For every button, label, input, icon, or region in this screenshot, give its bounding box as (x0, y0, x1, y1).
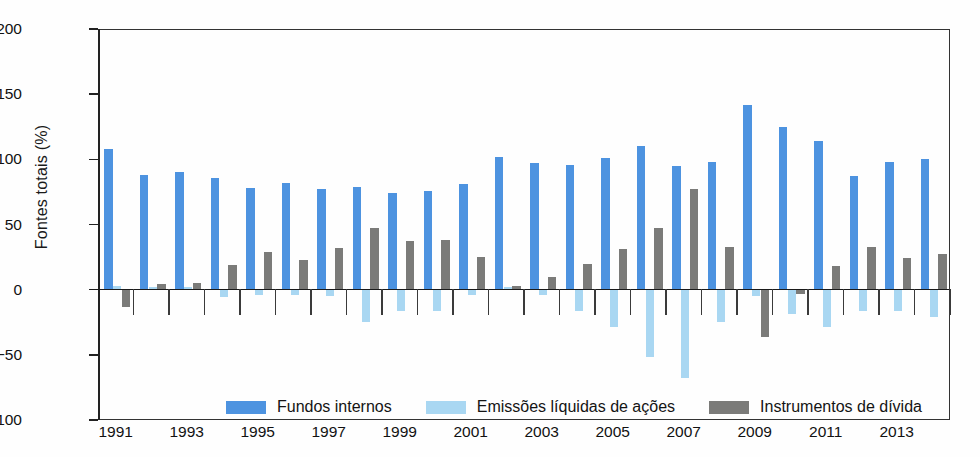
x-tick-8 (381, 289, 382, 315)
bar-2008-series-2 (725, 247, 733, 290)
bar-2006-series-1 (646, 290, 654, 358)
bar-1998-series-0 (353, 187, 361, 290)
bar-1996-series-2 (299, 260, 307, 290)
bar-2000-series-1 (433, 290, 441, 311)
bar-2000-series-2 (441, 240, 449, 290)
x-tick-24 (949, 289, 950, 315)
y-tick-label--100: −100 (0, 411, 22, 429)
x-tick-23 (914, 289, 915, 315)
y-tick-100 (89, 159, 98, 161)
x-tick-15 (630, 289, 631, 315)
x-tick-label-1995: 1995 (226, 423, 290, 441)
y-tick--50 (89, 354, 98, 356)
bar-2002-series-0 (495, 157, 503, 290)
y-tick-label-200: 200 (0, 20, 22, 38)
bar-1994-series-1 (220, 290, 228, 298)
bar-2007-series-2 (690, 189, 698, 289)
bar-2004-series-2 (583, 264, 591, 290)
bar-2000-series-0 (424, 191, 432, 290)
bar-2011-series-1 (823, 290, 831, 328)
legend-item-instrumentos-de-divida: Instrumentos de dívida (709, 398, 922, 416)
y-tick-label--50: −50 (0, 346, 22, 364)
bar-2010-series-1 (788, 290, 796, 315)
x-tick-21 (843, 289, 844, 315)
x-tick-label-1999: 1999 (368, 423, 432, 441)
x-tick-13 (559, 289, 560, 315)
bar-2001-series-2 (477, 257, 485, 290)
bar-2006-series-0 (637, 146, 645, 289)
bar-2003-series-1 (539, 290, 547, 295)
x-tick-6 (310, 289, 311, 315)
x-tick-label-2013: 2013 (865, 423, 929, 441)
y-tick-label-50: 50 (0, 216, 22, 234)
axis-right-spine (949, 29, 950, 420)
bar-2007-series-1 (681, 290, 689, 379)
y-tick-150 (89, 93, 98, 95)
x-tick-label-2009: 2009 (723, 423, 787, 441)
legend-item-fundos-internos: Fundos internos (226, 398, 392, 416)
bar-2014-series-1 (930, 290, 938, 317)
series-1-swatch-icon (426, 401, 466, 414)
bar-2012-series-2 (867, 247, 875, 290)
bar-2010-series-2 (796, 290, 804, 294)
x-tick-9 (417, 289, 418, 315)
x-tick-label-2003: 2003 (510, 423, 574, 441)
x-tick-label-2007: 2007 (652, 423, 716, 441)
bar-2005-series-0 (601, 158, 609, 290)
bar-2008-series-0 (708, 162, 716, 290)
x-tick-11 (488, 289, 489, 315)
bar-1994-series-2 (228, 265, 236, 290)
bar-1999-series-2 (406, 241, 414, 289)
bar-2009-series-2 (761, 290, 769, 337)
bar-1991-series-0 (104, 149, 112, 290)
x-tick-label-2011: 2011 (794, 423, 858, 441)
bar-1999-series-0 (388, 193, 396, 289)
bar-2008-series-1 (717, 290, 725, 323)
bar-1994-series-0 (211, 178, 219, 290)
bar-2005-series-2 (619, 249, 627, 289)
bar-2005-series-1 (610, 290, 618, 328)
x-tick-3 (204, 289, 205, 315)
x-tick-10 (452, 289, 453, 315)
y-axis-title: Fontes totais (%) (33, 37, 51, 337)
x-tick-4 (239, 289, 240, 315)
bar-1997-series-1 (326, 290, 334, 297)
x-tick-17 (701, 289, 702, 315)
bar-1993-series-0 (175, 172, 183, 289)
chart-figure: Fontes totais (%) 200150100500−50−100 19… (0, 0, 980, 457)
legend-label-1: Emissões líquidas de ações (477, 398, 675, 416)
bar-2001-series-1 (468, 290, 476, 295)
x-tick-5 (275, 289, 276, 315)
x-tick-label-1997: 1997 (297, 423, 361, 441)
x-tick-7 (346, 289, 347, 315)
bar-1996-series-0 (282, 183, 290, 290)
bar-1996-series-1 (291, 290, 299, 295)
y-tick-200 (89, 28, 98, 30)
bar-2003-series-0 (530, 163, 538, 289)
bar-2007-series-0 (672, 166, 680, 290)
axis-top-spine (98, 29, 950, 30)
bar-1997-series-2 (335, 248, 343, 290)
bar-2013-series-1 (894, 290, 902, 311)
bar-2013-series-2 (903, 258, 911, 289)
bar-2011-series-0 (814, 141, 822, 290)
x-tick-14 (594, 289, 595, 315)
axis-bottom-spine (98, 419, 950, 420)
legend-item-emissoes-liquidas-de-acoes: Emissões líquidas de ações (426, 398, 675, 416)
bar-1995-series-1 (255, 290, 263, 295)
bar-2012-series-0 (850, 176, 858, 289)
bar-2010-series-0 (779, 127, 787, 290)
bar-1995-series-2 (264, 252, 272, 290)
bar-2009-series-1 (752, 290, 760, 297)
bar-2014-series-2 (938, 254, 946, 289)
x-tick-label-1991: 1991 (84, 423, 148, 441)
plot-area: 1991199319951997199920012003200520072009… (98, 29, 950, 420)
legend-label-2: Instrumentos de dívida (760, 398, 922, 416)
x-tick-label-2005: 2005 (581, 423, 645, 441)
bar-1997-series-0 (317, 189, 325, 289)
x-tick-18 (736, 289, 737, 315)
bar-1999-series-1 (397, 290, 405, 311)
y-tick--100 (89, 419, 98, 421)
bar-1995-series-0 (246, 188, 254, 290)
bar-2011-series-2 (832, 266, 840, 289)
